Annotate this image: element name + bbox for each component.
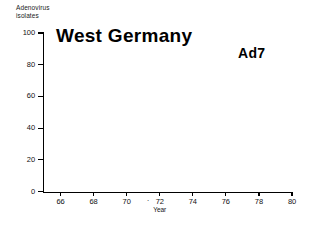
x-tick-label: 80 [280, 197, 304, 206]
x-tick-label: 74 [181, 197, 205, 206]
x-tick-label: 68 [82, 197, 106, 206]
x-tick-label: 78 [247, 197, 271, 206]
y-tick-label: 20 [5, 155, 35, 164]
x-tick-label: 76 [214, 197, 238, 206]
y-axis-caption-line1: Adenovirus [16, 4, 50, 11]
x-tick-mark [258, 192, 259, 196]
x-tick-mark [126, 192, 127, 196]
x-tick-label: 72 [148, 197, 172, 206]
x-tick-mark [192, 192, 193, 196]
y-axis-caption: Adenovirusisolates [16, 4, 50, 20]
y-tick-label: 40 [5, 123, 35, 132]
x-tick-label: 66 [49, 197, 73, 206]
x-axis-label: Year [140, 206, 180, 213]
y-tick-label: 0 [5, 187, 35, 196]
x-tick-mark [159, 192, 160, 196]
y-tick-label: 80 [5, 60, 35, 69]
x-tick-dot-marker: · [147, 196, 150, 205]
plot-area [44, 33, 292, 192]
y-tick-label: 100 [5, 28, 35, 37]
x-tick-mark [60, 192, 61, 196]
x-tick-mark [225, 192, 226, 196]
x-tick-label: 70 [115, 197, 139, 206]
x-tick-mark [93, 192, 94, 196]
x-tick-mark [291, 192, 292, 196]
chart-figure: Adenovirusisolates West Germany Ad7 0204… [0, 0, 309, 228]
y-axis-caption-line2: isolates [16, 12, 39, 19]
y-tick-label: 60 [5, 91, 35, 100]
